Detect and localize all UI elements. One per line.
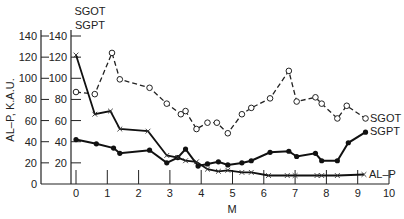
left-y-axis-title: AL–P, K.A.U. xyxy=(4,78,16,141)
chart: 012345678910 020406080100120140204060801… xyxy=(0,0,404,219)
x-tick-label: 1 xyxy=(104,187,110,199)
outer-y-tick-label: 80 xyxy=(25,93,37,105)
x-tick-label: 5 xyxy=(229,187,235,199)
series-line-alp xyxy=(76,55,364,176)
data-point-sgot xyxy=(319,101,325,107)
inner-y-tick-label: 60 xyxy=(55,115,67,127)
x-tick-label: 9 xyxy=(355,187,361,199)
data-point-sgpt xyxy=(164,160,169,165)
data-point-sgot xyxy=(267,96,273,102)
data-point-sgot xyxy=(109,50,115,56)
series-label-alp: AL–P xyxy=(369,168,396,180)
inner-y-tick-label: 120 xyxy=(49,51,67,63)
data-point-sgpt xyxy=(294,154,299,159)
data-point-sgot xyxy=(363,116,369,122)
inner-y-tick-label: 20 xyxy=(55,157,67,169)
data-point-sgot xyxy=(164,101,170,107)
data-point-sgpt xyxy=(335,158,340,163)
outer-y-tick-label: 60 xyxy=(25,115,37,127)
data-point-sgpt xyxy=(267,150,272,155)
data-point-sgpt xyxy=(195,163,200,168)
x-tick-label: 4 xyxy=(198,187,204,199)
data-point-sgpt xyxy=(94,141,99,146)
data-point-sgpt xyxy=(286,149,291,154)
outer-y-tick-label: 40 xyxy=(25,136,37,148)
data-point-sgot xyxy=(294,99,300,105)
data-point-sgpt xyxy=(319,158,324,163)
data-point-sgot xyxy=(92,91,98,97)
data-point-sgpt xyxy=(239,160,244,165)
data-point-sgpt xyxy=(346,140,351,145)
data-point-sgot xyxy=(147,85,153,91)
data-point-sgot xyxy=(73,89,79,95)
inner-y-tick-label: 80 xyxy=(55,93,67,105)
data-point-sgpt xyxy=(117,151,122,156)
data-point-sgpt xyxy=(313,151,318,156)
y-ticks: 02040608010012014020406080100120140 xyxy=(19,30,81,190)
x-axis-title: M xyxy=(227,203,236,215)
data-point-sgpt xyxy=(225,162,230,167)
outer-y-tick-label: 100 xyxy=(19,72,37,84)
data-point-sgot xyxy=(313,95,319,101)
data-point-sgot xyxy=(214,120,220,126)
x-tick-label: 6 xyxy=(261,187,267,199)
data-point-sgot xyxy=(239,111,245,117)
inner-y-tick-label: 100 xyxy=(49,72,67,84)
data-point-sgpt xyxy=(216,159,221,164)
x-tick-label: 8 xyxy=(323,187,329,199)
outer-y-tick-label: 20 xyxy=(25,157,37,169)
series-lines xyxy=(76,53,366,176)
outer-y-tick-label: 0 xyxy=(31,178,37,190)
data-point-sgot xyxy=(335,116,341,122)
data-point-sgpt xyxy=(73,137,78,142)
data-point-sgpt xyxy=(363,130,368,135)
data-point-sgot xyxy=(248,105,254,111)
inner-y-axis-title-sgot: SGOT xyxy=(74,5,105,17)
data-point-sgot xyxy=(286,68,292,74)
x-tick-label: 10 xyxy=(383,187,395,199)
data-point-sgot xyxy=(344,103,350,109)
data-point-sgpt xyxy=(147,148,152,153)
data-point-sgpt xyxy=(249,158,254,163)
x-tick-label: 7 xyxy=(292,187,298,199)
x-tick-label: 2 xyxy=(136,187,142,199)
data-point-sgot xyxy=(194,126,200,132)
data-point-sgot xyxy=(225,130,231,136)
outer-y-tick-label: 140 xyxy=(19,30,37,42)
data-point-sgpt xyxy=(205,161,210,166)
series-line-sgot xyxy=(76,53,366,133)
inner-y-tick-label: 140 xyxy=(49,30,67,42)
data-point-sgpt xyxy=(183,147,188,152)
x-tick-label: 3 xyxy=(167,187,173,199)
x-tick-label: 0 xyxy=(73,187,79,199)
data-point-sgot xyxy=(205,120,211,126)
data-point-sgot xyxy=(117,77,123,83)
data-point-sgot xyxy=(183,108,189,114)
data-point-sgpt xyxy=(111,145,116,150)
series-label-sgpt: SGPT xyxy=(370,125,400,137)
outer-y-tick-label: 120 xyxy=(19,51,37,63)
inner-y-tick-label: 40 xyxy=(55,136,67,148)
series-label-sgot: SGOT xyxy=(370,112,401,124)
inner-y-axis-title-sgpt: SGPT xyxy=(75,19,105,31)
